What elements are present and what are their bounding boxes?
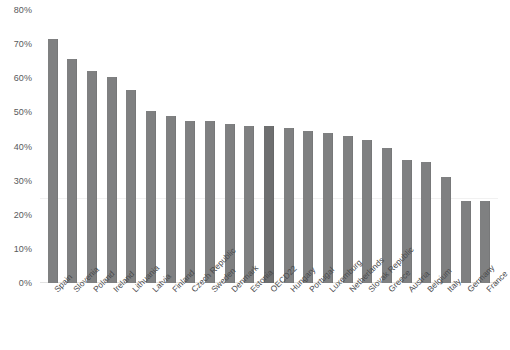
x-axis-slot: Luxemburg: [318, 285, 338, 350]
x-axis-slot: Slovenia: [63, 285, 83, 350]
y-axis: 80%70%60%50%40%30%20%10%0%: [0, 0, 40, 350]
bar-slot: [279, 10, 299, 283]
bar[interactable]: [323, 133, 333, 283]
bar-slot: [200, 10, 220, 283]
plot-area: [40, 10, 498, 283]
bar-slot: [141, 10, 161, 283]
bar[interactable]: [244, 126, 254, 283]
bar[interactable]: [303, 131, 313, 283]
bar-slot: [299, 10, 319, 283]
bar-slot: [161, 10, 181, 283]
bar[interactable]: [107, 77, 117, 283]
bar-series: [40, 10, 498, 283]
bar-slot: [416, 10, 436, 283]
bar[interactable]: [284, 128, 294, 283]
bar[interactable]: [146, 111, 156, 283]
x-axis-slot: Netherlands: [338, 285, 358, 350]
bar-slot: [181, 10, 201, 283]
bar[interactable]: [67, 59, 77, 283]
bar[interactable]: [185, 121, 195, 283]
x-axis-slot: OECD22: [259, 285, 279, 350]
x-axis-slot: Spain: [43, 285, 63, 350]
x-axis-slot: France: [475, 285, 495, 350]
bar[interactable]: [264, 126, 274, 283]
x-axis-slot: Austria: [397, 285, 417, 350]
bar-slot: [122, 10, 142, 283]
bar-slot: [456, 10, 476, 283]
y-axis-tick-label: 50%: [14, 107, 32, 117]
y-axis-tick-label: 70%: [14, 39, 32, 49]
y-axis-tick-label: 30%: [14, 176, 32, 186]
x-axis-slot: Germany: [456, 285, 476, 350]
y-axis-tick-label: 20%: [14, 210, 32, 220]
x-axis: SpainSloveniaPolandIrelandLithuaniaLatvi…: [40, 285, 498, 350]
bar-slot: [102, 10, 122, 283]
bar-slot: [436, 10, 456, 283]
bar[interactable]: [126, 90, 136, 283]
bar[interactable]: [166, 116, 176, 283]
x-axis-slot: Latvia: [141, 285, 161, 350]
bar[interactable]: [421, 162, 431, 283]
bar-slot: [82, 10, 102, 283]
x-axis-slot: Denmark: [220, 285, 240, 350]
x-axis-slot: Greece: [377, 285, 397, 350]
bar-slot: [318, 10, 338, 283]
x-axis-slot: Lithuania: [122, 285, 142, 350]
y-axis-tick-label: 10%: [14, 244, 32, 254]
x-axis-slot: Portugal: [299, 285, 319, 350]
x-axis-slot: Finland: [161, 285, 181, 350]
bar-slot: [220, 10, 240, 283]
x-axis-slot: Hungary: [279, 285, 299, 350]
bar[interactable]: [205, 121, 215, 283]
x-axis-slot: Poland: [82, 285, 102, 350]
bar-slot: [358, 10, 378, 283]
y-axis-tick-label: 40%: [14, 142, 32, 152]
y-axis-tick-label: 80%: [14, 5, 32, 15]
bar-slot: [259, 10, 279, 283]
x-axis-slot: Belgium: [416, 285, 436, 350]
bar-slot: [43, 10, 63, 283]
bar[interactable]: [48, 39, 58, 283]
bar-slot: [397, 10, 417, 283]
bar-slot: [63, 10, 83, 283]
bar[interactable]: [461, 201, 471, 283]
x-axis-slot: Italy: [436, 285, 456, 350]
y-axis-tick-label: 0%: [19, 278, 32, 288]
x-axis-slot: Sweden: [200, 285, 220, 350]
bar-slot: [475, 10, 495, 283]
bar[interactable]: [402, 160, 412, 283]
y-axis-tick-label: 60%: [14, 73, 32, 83]
x-axis-slot: Ireland: [102, 285, 122, 350]
x-axis-slot: Estonia: [240, 285, 260, 350]
bar-slot: [338, 10, 358, 283]
x-axis-slot: Czech Republic: [181, 285, 201, 350]
bar[interactable]: [87, 71, 97, 283]
bar-slot: [377, 10, 397, 283]
x-axis-slot: Slovak Republic: [358, 285, 378, 350]
bar-slot: [240, 10, 260, 283]
